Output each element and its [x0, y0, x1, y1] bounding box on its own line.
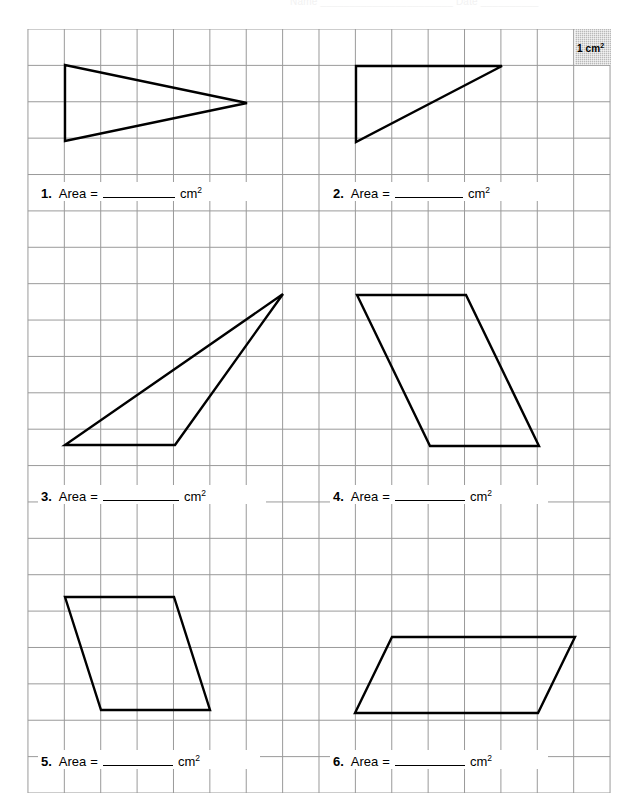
problem-1-unit-text: cm	[180, 186, 197, 201]
problem-2-equals: =	[382, 186, 390, 201]
problem-4-answer-blank[interactable]	[395, 488, 465, 501]
problem-6-answer-blank[interactable]	[395, 753, 465, 766]
problem-3: 3. Area = cm2	[41, 488, 206, 508]
problem-2-number: 2.	[333, 186, 344, 201]
problem-3-number: 3.	[41, 489, 52, 504]
problem-4-equals: =	[382, 489, 390, 504]
problem-5-unit-text: cm	[178, 754, 195, 769]
problem-6: 6. Area = cm2	[333, 753, 492, 773]
centimeter-grid	[27, 29, 611, 793]
problem-2-unit: cm2	[468, 186, 490, 201]
problem-6-unit: cm2	[470, 754, 492, 769]
problem-2: 2. Area = cm2	[333, 185, 490, 205]
problem-4-unit-text: cm	[470, 489, 487, 504]
problem-1-area-label: Area	[59, 186, 86, 201]
problem-3-answer-blank[interactable]	[103, 488, 179, 501]
unit-square-legend-label: 1 cm2	[577, 43, 604, 54]
problem-1-answer-blank[interactable]	[103, 185, 175, 198]
problem-1-equals: =	[90, 186, 98, 201]
problem-2-unit-exponent: 2	[485, 185, 490, 195]
problem-4-unit-exponent: 2	[487, 488, 492, 498]
page-header-title: Name _______________________ Date ______…	[290, 0, 538, 7]
problem-4-unit: cm2	[470, 489, 492, 504]
problem-3-equals: =	[90, 489, 98, 504]
problem-4-number: 4.	[333, 489, 344, 504]
problem-6-unit-exponent: 2	[487, 753, 492, 763]
problem-5-answer-blank[interactable]	[103, 753, 173, 766]
problem-1-unit-exponent: 2	[197, 185, 202, 195]
problem-6-equals: =	[382, 754, 390, 769]
problem-6-unit-text: cm	[470, 754, 487, 769]
worksheet-page: Name _______________________ Date ______…	[0, 0, 638, 808]
problem-3-area-label: Area	[59, 489, 86, 504]
grid-lines	[27, 29, 611, 793]
problem-6-area-label: Area	[351, 754, 378, 769]
problem-5-area-label: Area	[59, 754, 86, 769]
problem-4: 4. Area = cm2	[333, 488, 492, 508]
unit-square-legend-exponent: 2	[600, 42, 604, 49]
problem-2-unit-text: cm	[468, 186, 485, 201]
problem-3-unit-exponent: 2	[201, 488, 206, 498]
problem-5: 5. Area = cm2	[41, 753, 200, 773]
unit-square-legend-value: 1 cm	[577, 43, 600, 54]
problem-3-unit: cm2	[184, 489, 206, 504]
problem-5-equals: =	[90, 754, 98, 769]
problem-5-unit: cm2	[178, 754, 200, 769]
problem-5-number: 5.	[41, 754, 52, 769]
problem-1-number: 1.	[41, 186, 52, 201]
problem-2-answer-blank[interactable]	[395, 185, 463, 198]
problem-2-area-label: Area	[351, 186, 378, 201]
page-header-strip: Name _______________________ Date ______…	[0, 0, 638, 22]
problem-1-unit: cm2	[180, 186, 202, 201]
problem-4-area-label: Area	[351, 489, 378, 504]
problem-5-unit-exponent: 2	[195, 753, 200, 763]
problem-1: 1. Area = cm2	[41, 185, 202, 205]
problem-6-number: 6.	[333, 754, 344, 769]
problem-3-unit-text: cm	[184, 489, 201, 504]
